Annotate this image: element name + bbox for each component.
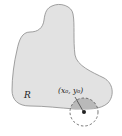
boundary-point <box>82 110 86 114</box>
point-label: (x₀, y₀) <box>58 86 83 95</box>
region-diagram: R (x₀, y₀) <box>0 0 122 136</box>
region-label: R <box>23 90 31 100</box>
diagram-canvas: R (x₀, y₀) <box>0 0 122 136</box>
